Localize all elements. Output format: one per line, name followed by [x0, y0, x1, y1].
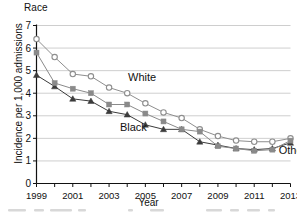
data-point — [143, 101, 148, 106]
data-point — [270, 147, 275, 152]
x-tick-label: 2005 — [135, 190, 156, 201]
y-tick-label: 4 — [25, 88, 31, 99]
x-tick-label: 2011 — [244, 190, 264, 201]
y-axis-ticks: 01234567 — [25, 20, 36, 189]
data-point — [215, 133, 220, 138]
x-tick-label: 2013 — [280, 190, 297, 201]
data-point — [288, 138, 293, 143]
data-point — [88, 74, 93, 79]
data-point — [179, 115, 184, 120]
y-tick-label: 2 — [25, 133, 31, 144]
data-point — [252, 139, 257, 144]
data-point — [197, 129, 202, 134]
series-line — [37, 53, 291, 151]
x-tick-label: 2009 — [207, 190, 228, 201]
data-point — [52, 54, 57, 59]
data-point — [52, 81, 57, 86]
data-point — [215, 144, 220, 149]
data-point — [125, 91, 130, 96]
x-tick-label: 1999 — [26, 190, 47, 201]
y-tick-label: 6 — [25, 43, 31, 54]
y-tick-label: 7 — [25, 20, 31, 31]
data-point — [34, 50, 39, 55]
y-tick-label: 3 — [25, 110, 31, 121]
data-point — [107, 102, 112, 107]
data-point — [106, 108, 112, 114]
data-point — [125, 102, 130, 107]
data-point — [234, 146, 239, 151]
series-label-black: Black — [120, 121, 147, 133]
data-series-group — [33, 36, 293, 153]
data-point — [197, 139, 203, 145]
data-point — [70, 96, 76, 102]
line-chart-plot: 01234567 1999200120032005200720092011201… — [0, 0, 297, 214]
data-point — [233, 138, 238, 143]
series-label-white: White — [128, 71, 156, 83]
data-point — [33, 72, 39, 78]
x-tick-label: 2003 — [99, 190, 120, 201]
data-point — [106, 85, 111, 90]
series-other — [34, 50, 293, 153]
y-tick-label: 0 — [25, 178, 31, 189]
data-point — [179, 127, 184, 132]
data-point — [161, 110, 166, 115]
data-point — [70, 71, 75, 76]
data-point — [88, 91, 93, 96]
y-tick-label: 1 — [25, 155, 31, 166]
data-point — [70, 86, 75, 91]
x-tick-label: 2001 — [62, 190, 83, 201]
data-point — [252, 148, 257, 153]
data-point — [161, 119, 166, 124]
caption-cutoff-smudge — [0, 207, 297, 214]
data-point — [143, 111, 148, 116]
x-axis-ticks: 19992001200320052007200920112013 — [26, 184, 297, 201]
x-tick-label: 2007 — [171, 190, 192, 201]
data-point — [270, 139, 275, 144]
chart-figure: Race Incidence per 1,000 admissions Year… — [0, 0, 297, 214]
y-tick-label: 5 — [25, 65, 31, 76]
series-label-other: Other — [279, 144, 297, 156]
data-point — [34, 36, 39, 41]
